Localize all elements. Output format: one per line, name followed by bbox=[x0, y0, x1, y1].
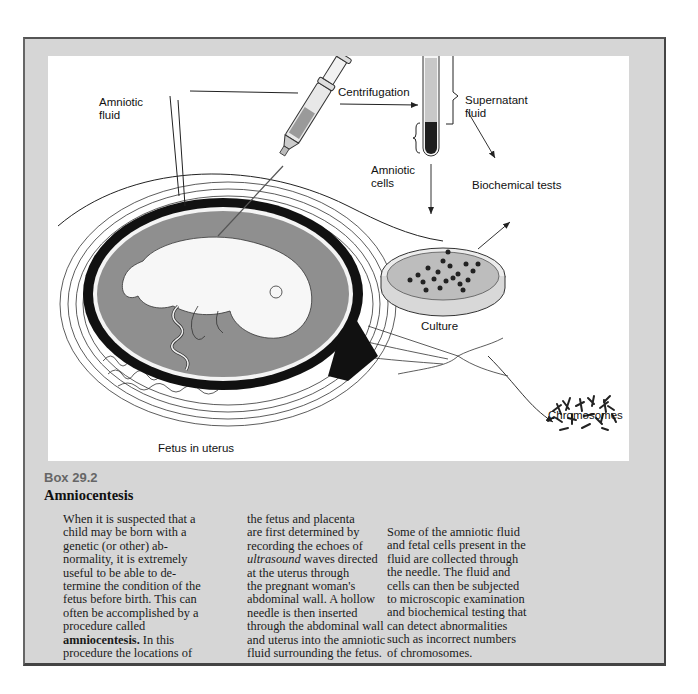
amniocentesis-figure: Amnioticfluid Centrifugation Supernatant… bbox=[48, 56, 629, 461]
label-supernatant-fluid: Supernatantfluid bbox=[465, 94, 528, 120]
label-biochemical-tests: Biochemical tests bbox=[472, 179, 561, 192]
test-tube bbox=[421, 56, 441, 156]
culture-to-tests-arrow bbox=[478, 222, 510, 249]
body-column-3: Some of the amniotic fluid and fetal cel… bbox=[387, 526, 526, 660]
label-chromosomes: Chromosomes bbox=[548, 409, 623, 422]
box-title: Amniocentesis bbox=[44, 487, 133, 504]
italic-term: ultrasound bbox=[247, 552, 301, 566]
centrifugation-arrow bbox=[340, 104, 418, 105]
label-amniotic-fluid: Amnioticfluid bbox=[99, 96, 143, 122]
box-number: Box 29.2 bbox=[44, 470, 97, 485]
label-culture: Culture bbox=[421, 320, 458, 333]
key-term: amniocentesis. bbox=[63, 633, 140, 647]
body-column-2: the fetus and placenta are first determi… bbox=[247, 513, 385, 660]
supernatant-bracket bbox=[446, 56, 458, 124]
petri-dish bbox=[381, 248, 505, 316]
syringe-leader bbox=[190, 91, 298, 93]
amniotic-cells-brace bbox=[413, 123, 420, 153]
amniotic-fluid-leader bbox=[178, 100, 185, 206]
label-centrifugation: Centrifugation bbox=[338, 86, 410, 99]
label-amniotic-cells: Amnioticcells bbox=[371, 164, 415, 190]
body-column-1: When it is suspected that a child may be… bbox=[63, 513, 201, 660]
culture-to-chromosomes-arrow bbox=[488, 356, 553, 422]
label-fetus-in-uterus: Fetus in uterus bbox=[158, 442, 234, 455]
